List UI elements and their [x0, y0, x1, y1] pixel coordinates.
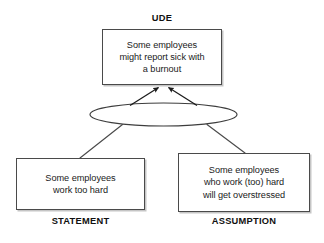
- ude-caption: UDE: [102, 13, 222, 23]
- edge-assumption-to-connector: [207, 125, 245, 154]
- and-connector-ellipse: [90, 103, 237, 126]
- node-statement-text: Some employees work too hard: [17, 172, 144, 196]
- node-assumption-text: Some employees who work (too) hard will …: [179, 164, 309, 201]
- assumption-caption: ASSUMPTION: [178, 216, 310, 226]
- statement-caption: STATEMENT: [16, 216, 145, 226]
- node-ude-text: Some employees might report sick with a …: [103, 39, 221, 76]
- node-assumption[interactable]: Some employees who work (too) hard will …: [178, 153, 310, 212]
- node-statement[interactable]: Some employees work too hard: [16, 158, 145, 210]
- edge-statement-to-connector: [80, 125, 123, 159]
- node-ude[interactable]: Some employees might report sick with a …: [102, 29, 222, 85]
- diagram-canvas: UDE Some employees might report sick wit…: [0, 0, 324, 243]
